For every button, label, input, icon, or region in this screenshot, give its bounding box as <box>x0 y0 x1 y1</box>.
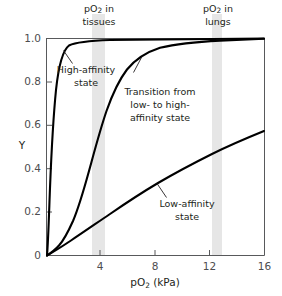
band-lungs <box>212 14 222 255</box>
y-axis-title: Y <box>18 139 26 151</box>
x-tick-label-16: 16 <box>258 260 272 272</box>
chart-canvas: 1.0 0.8 0.6 0.4 0.2 0 4 8 12 16 pO2 (kPa… <box>0 0 282 296</box>
annotation-transition-line3: affinity state <box>130 112 190 123</box>
y-tick-label-0: 0 <box>34 249 41 261</box>
annotation-low-affinity-line2: state <box>175 211 199 222</box>
y-tick-label-0.4: 0.4 <box>24 162 41 174</box>
annotation-transition-line1: Transition from <box>123 86 195 97</box>
annotation-high-affinity-line1: High-affinity <box>57 64 116 75</box>
band-label-tissues-line2: tissues <box>82 16 115 27</box>
band-label-tissues-prefix: pO <box>84 3 98 14</box>
annotation-low-affinity-line1: Low-affinity <box>159 198 215 209</box>
band-label-tissues-line1: pO2 in <box>84 3 114 16</box>
x-axis-title: pO2 (kPa) <box>130 276 180 290</box>
curve-low-affinity <box>47 131 264 256</box>
band-label-lungs-prefix: pO <box>203 3 217 14</box>
leader-high-affinity <box>64 51 73 64</box>
band-label-lungs-line1: pO2 in <box>203 3 233 16</box>
y-tick-label-0.6: 0.6 <box>24 118 41 130</box>
y-tick-label-1.0: 1.0 <box>24 32 41 44</box>
band-label-tissues-suffix: in <box>102 3 114 14</box>
annotation-transition-line2: low- to high- <box>130 99 189 110</box>
y-tick-label-0.2: 0.2 <box>24 205 41 217</box>
leader-low-affinity <box>157 184 167 198</box>
annotation-high-affinity-line2: state <box>74 77 98 88</box>
band-label-lungs-line2: lungs <box>205 16 231 27</box>
band-label-lungs-suffix: in <box>221 3 233 14</box>
x-tick-label-8: 8 <box>152 260 159 272</box>
y-tick-label-0.8: 0.8 <box>24 75 41 87</box>
x-tick-label-4: 4 <box>97 260 104 272</box>
x-axis-title-prefix: pO <box>130 276 145 288</box>
oxygen-binding-curve-figure: 1.0 0.8 0.6 0.4 0.2 0 4 8 12 16 pO2 (kPa… <box>0 0 282 296</box>
x-axis-title-suffix: (kPa) <box>150 276 180 288</box>
x-tick-label-12: 12 <box>203 260 216 272</box>
